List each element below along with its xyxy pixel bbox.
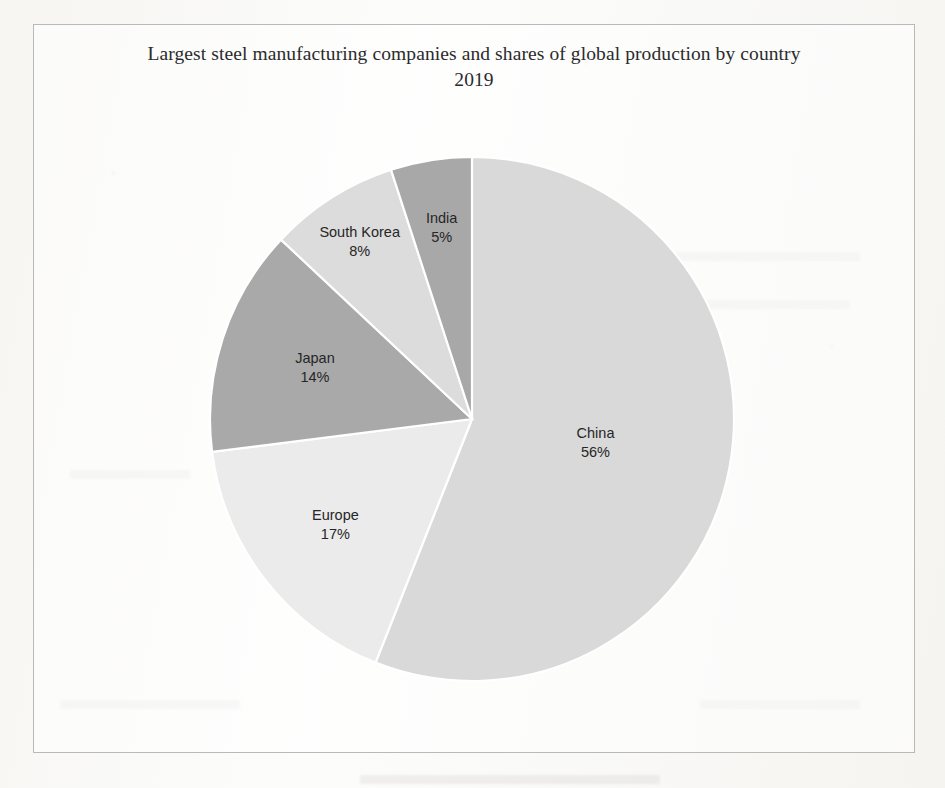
pie-label-value: 5%: [426, 228, 457, 247]
pie-label-value: 17%: [312, 525, 359, 544]
pie-label-name: India: [426, 210, 457, 226]
pie-label-value: 56%: [577, 443, 615, 462]
pie-label-name: Europe: [312, 507, 359, 523]
pie-label-india: India5%: [426, 209, 457, 247]
pie-label-value: 8%: [319, 242, 400, 261]
pie-label-value: 14%: [295, 368, 335, 387]
pie-label-europe: Europe17%: [312, 506, 359, 544]
chart-frame: Largest steel manufacturing companies an…: [33, 24, 915, 753]
pie-label-name: Japan: [295, 350, 335, 366]
pie-label-south-korea: South Korea8%: [319, 223, 400, 261]
scan-artifact: [360, 775, 660, 784]
pie-label-japan: Japan14%: [295, 349, 335, 387]
pie-label-china: China56%: [577, 424, 615, 462]
pie-label-name: China: [577, 425, 615, 441]
chart-title: Largest steel manufacturing companies an…: [34, 41, 914, 93]
pie-label-name: South Korea: [319, 224, 400, 240]
